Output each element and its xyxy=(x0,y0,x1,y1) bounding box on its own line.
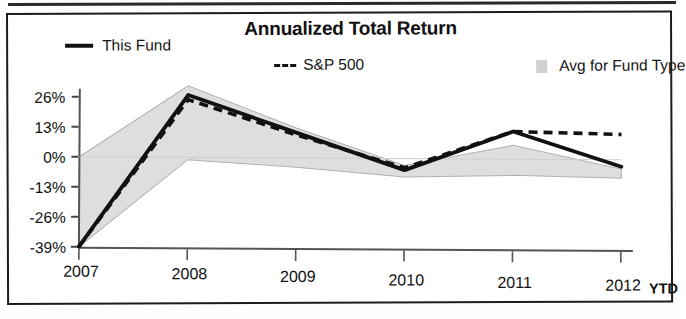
chart-frame: Annualized Total Return This Fund S&P 50… xyxy=(6,10,673,305)
y-axis-tick-label: -26% xyxy=(0,209,66,227)
x-axis-tick-label: 2012 xyxy=(605,277,641,295)
chart-inner: Annualized Total Return This Fund S&P 50… xyxy=(8,12,670,302)
y-axis-tick-label: 0% xyxy=(0,149,66,167)
y-axis-labels: 26%13%0%-13%-26%-39% xyxy=(8,12,670,302)
page-top-rule xyxy=(8,1,676,6)
x-axis-tick-label: 2011 xyxy=(497,274,531,292)
y-axis-tick-label: -13% xyxy=(0,179,66,197)
x-axis-tick-label: 2008 xyxy=(172,265,208,283)
x-axis-tick-label: 2009 xyxy=(280,268,316,286)
y-axis-tick-label: 13% xyxy=(0,119,65,137)
x-axis-tick-label: 2007 xyxy=(63,263,99,281)
y-axis-tick-label: -39% xyxy=(0,239,66,257)
y-axis-tick-label: 26% xyxy=(0,89,65,107)
x-axis-ytd-note: YTD xyxy=(649,280,678,296)
x-axis-tick-label: 2010 xyxy=(388,271,424,289)
